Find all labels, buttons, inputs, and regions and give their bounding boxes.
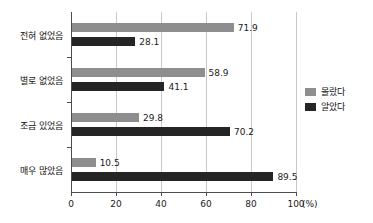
bar-value-label: 29.8	[143, 113, 163, 123]
bar-group: 별로 없었음58.941.1	[72, 57, 296, 102]
x-axis-tick	[161, 192, 162, 196]
bar-row: 28.1	[72, 37, 297, 46]
bar[interactable]	[72, 113, 139, 122]
bar-group: 조금 있었음29.870.2	[72, 102, 296, 147]
bar-value-label: 71.9	[238, 23, 258, 33]
y-axis-tick	[67, 147, 71, 148]
bar-row: 41.1	[72, 82, 297, 91]
x-axis-tick-label: 60	[200, 199, 211, 209]
bar-row: 58.9	[72, 68, 297, 77]
bar[interactable]	[72, 68, 205, 77]
bar-group: 매우 많았음10.589.5	[72, 147, 296, 192]
x-axis-tick-label: 80	[245, 199, 256, 209]
category-label: 매우 많았음	[20, 163, 63, 176]
bar-value-label: 28.1	[139, 37, 159, 47]
bar-value-label: 89.5	[277, 172, 297, 182]
category-label: 전혀 없었음	[20, 28, 63, 41]
bar-value-label: 41.1	[168, 82, 188, 92]
x-axis-tick	[251, 192, 252, 196]
legend-label: 몰랐다	[321, 85, 345, 98]
x-axis-tick	[206, 192, 207, 196]
legend-swatch-icon	[305, 88, 316, 96]
bar[interactable]	[72, 172, 273, 181]
bar[interactable]	[72, 23, 234, 32]
bar-group: 전혀 없었음71.928.1	[72, 12, 296, 57]
x-axis-line	[71, 192, 296, 193]
bar[interactable]	[72, 37, 135, 46]
bar[interactable]	[72, 82, 164, 91]
bar[interactable]	[72, 127, 230, 136]
bar-value-label: 58.9	[209, 68, 229, 78]
x-axis-tick	[71, 192, 72, 196]
category-label: 별로 없었음	[20, 73, 63, 86]
bar-row: 70.2	[72, 127, 297, 136]
legend-item[interactable]: 몰랐다	[305, 85, 371, 98]
x-axis-tick	[296, 192, 297, 196]
bar-chart: 020406080100 (%) 전혀 없었음71.928.1별로 없었음58.…	[0, 0, 373, 223]
category-label: 조금 있었음	[20, 118, 63, 131]
x-axis-tick	[116, 192, 117, 196]
bar-row: 71.9	[72, 23, 297, 32]
plot-area: 020406080100 (%) 전혀 없었음71.928.1별로 없었음58.…	[71, 12, 296, 192]
chart-legend: 몰랐다알았다	[305, 85, 371, 115]
bar-value-label: 70.2	[234, 127, 254, 137]
x-axis-unit-label: (%)	[302, 199, 318, 209]
bar-row: 10.5	[72, 158, 297, 167]
y-axis-tick	[67, 102, 71, 103]
bar-row: 29.8	[72, 113, 297, 122]
legend-item[interactable]: 알았다	[305, 100, 371, 113]
x-axis-tick-label: 20	[110, 199, 121, 209]
x-axis-tick-label: 40	[155, 199, 166, 209]
bar-row: 89.5	[72, 172, 297, 181]
legend-label: 알았다	[321, 100, 345, 113]
legend-swatch-icon	[305, 103, 316, 111]
bar-value-label: 10.5	[100, 158, 120, 168]
bar[interactable]	[72, 158, 96, 167]
x-axis-tick-label: 0	[68, 199, 74, 209]
y-axis-tick	[67, 57, 71, 58]
